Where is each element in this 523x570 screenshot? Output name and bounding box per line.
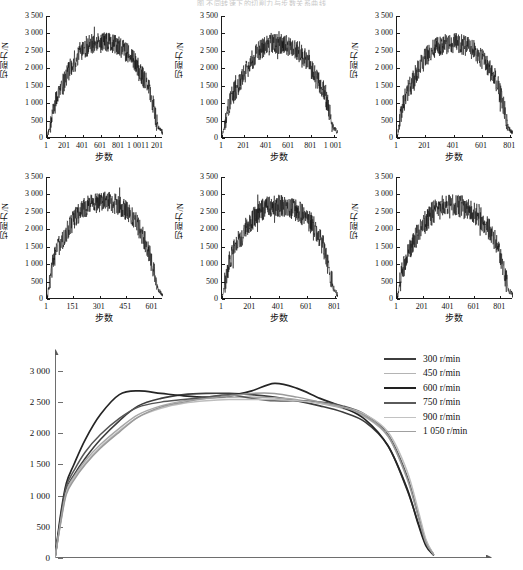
legend-swatch-line — [384, 387, 416, 389]
x-tick-label: 601 — [146, 303, 158, 311]
y-axis-ticks: 05001 0001 5002 0002 5003 0003 500 — [359, 16, 395, 138]
x-tick-label: 401 — [260, 142, 272, 150]
y-tick-label: 1 500 — [200, 243, 218, 251]
y-axis-ticks: 05001 0001 5002 0002 5003 0003 500 — [9, 177, 45, 299]
signal-plot — [47, 177, 163, 299]
legend-item[interactable]: 1 050 r/min — [384, 425, 519, 440]
summary-series-line — [55, 393, 433, 558]
summary-y-ticks: 05001 0001 5002 0002 5003 000 — [8, 346, 54, 558]
force-signal-line — [397, 33, 513, 138]
x-tick-label: 1 001 — [127, 142, 145, 150]
x-tick-label: 801 — [493, 303, 505, 311]
y-tick-label: 2 500 — [200, 208, 218, 216]
y-tick-label: 3 000 — [200, 190, 218, 198]
y-tick-label: 0 — [389, 295, 393, 303]
y-axis-ticks: 05001 0001 5002 0002 5003 0003 500 — [184, 16, 220, 138]
y-tick-label: 500 — [381, 278, 393, 286]
y-tick-label: 3 000 — [25, 190, 43, 198]
force-signal-line — [47, 27, 163, 138]
chart-panel-2: 切削力/N05001 0001 5002 0002 5003 0003 5001… — [175, 8, 349, 168]
x-tick-label: 1 — [219, 303, 223, 311]
x-tick-label: 1 — [219, 142, 223, 150]
y-tick-label: 1 500 — [25, 243, 43, 251]
y-tick-label: 2 000 — [25, 225, 43, 233]
x-tick-label: 801 — [112, 142, 124, 150]
y-tick-label: 1 000 — [375, 260, 393, 268]
chart-panel-4: 切削力/N05001 0001 5002 0002 5003 0003 5001… — [0, 169, 174, 329]
plot-area — [396, 177, 512, 299]
y-tick-label: 500 — [31, 278, 43, 286]
legend-swatch-line — [384, 417, 416, 418]
legend-swatch-line — [384, 358, 416, 360]
x-tick-label: 151 — [66, 303, 78, 311]
plot-area — [221, 16, 337, 138]
plot-area — [396, 16, 512, 138]
legend-label: 300 r/min — [423, 355, 460, 365]
x-tick-label: 451 — [119, 303, 131, 311]
legend-label: 450 r/min — [423, 369, 460, 379]
x-tick-label: 1 001 — [324, 142, 342, 150]
chart-panel-1: 切削力/N05001 0001 5002 0002 5003 0003 5001… — [0, 8, 174, 168]
y-tick-label: 0 — [389, 134, 393, 142]
plot-area — [221, 177, 337, 299]
x-tick-label: 201 — [237, 142, 249, 150]
x-tick-label: 401 — [442, 303, 454, 311]
y-tick-label: 1 500 — [375, 82, 393, 90]
y-tick-label: 3 000 — [375, 29, 393, 37]
legend-swatch-line — [384, 402, 416, 404]
summary-y-tick-label: 1 500 — [30, 460, 50, 469]
y-tick-mark — [47, 138, 50, 139]
x-tick-label: 601 — [467, 303, 479, 311]
y-tick-label: 1 500 — [375, 243, 393, 251]
small-multiples-grid: 切削力/N05001 0001 5002 0002 5003 0003 5001… — [0, 8, 523, 330]
force-signal-line — [222, 31, 338, 138]
plot-area — [46, 177, 162, 299]
x-axis-label: 步数 — [221, 314, 337, 323]
signal-plot — [222, 16, 338, 138]
x-tick-label: 601 — [94, 142, 106, 150]
summary-y-tick-label: 2 500 — [30, 398, 50, 407]
y-tick-label: 2 500 — [25, 208, 43, 216]
x-axis-label: 步数 — [46, 314, 162, 323]
y-tick-mark — [222, 138, 225, 139]
legend-item[interactable]: 450 r/min — [384, 367, 519, 382]
summary-legend: 300 r/min450 r/min600 r/min750 r/min900 … — [384, 352, 519, 439]
x-tick-label: 301 — [93, 303, 105, 311]
legend-swatch-line — [384, 431, 416, 432]
y-tick-label: 2 000 — [25, 64, 43, 72]
summary-series-line — [55, 393, 433, 558]
y-tick-label: 2 000 — [375, 225, 393, 233]
x-tick-label: 601 — [300, 303, 312, 311]
force-signal-line — [47, 188, 163, 299]
legend-item[interactable]: 900 r/min — [384, 410, 519, 425]
signal-plot — [397, 177, 513, 299]
summary-y-tick-mark — [58, 558, 63, 559]
legend-item[interactable]: 600 r/min — [384, 381, 519, 396]
y-tick-label: 2 500 — [200, 47, 218, 55]
y-tick-label: 3 500 — [25, 12, 43, 20]
legend-item[interactable]: 300 r/min — [384, 352, 519, 367]
legend-label: 600 r/min — [423, 384, 460, 394]
x-tick-label: 201 — [418, 142, 430, 150]
y-tick-label: 500 — [206, 278, 218, 286]
summary-y-tick-label: 3 000 — [30, 366, 50, 375]
x-axis-label: 步数 — [396, 153, 512, 162]
y-tick-mark — [397, 138, 400, 139]
summary-series-line — [55, 395, 433, 558]
y-tick-label: 3 000 — [200, 29, 218, 37]
x-tick-label: 601 — [282, 142, 294, 150]
y-tick-label: 2 000 — [200, 64, 218, 72]
legend-item[interactable]: 750 r/min — [384, 396, 519, 411]
x-axis-label: 步数 — [221, 153, 337, 162]
y-tick-mark — [47, 299, 50, 300]
x-tick-label: 801 — [503, 142, 515, 150]
x-axis-label: 步数 — [396, 314, 512, 323]
signal-plot — [397, 16, 513, 138]
y-tick-label: 1 000 — [25, 260, 43, 268]
y-tick-label: 3 500 — [200, 12, 218, 20]
y-tick-mark — [397, 299, 400, 300]
y-axis-ticks: 05001 0001 5002 0002 5003 0003 500 — [184, 177, 220, 299]
figure-page: 图 不同转速下的切削力与步数关系曲线 切削力/N05001 0001 5002 … — [0, 0, 523, 570]
summary-series-line — [55, 383, 433, 558]
y-tick-label: 3 500 — [375, 12, 393, 20]
